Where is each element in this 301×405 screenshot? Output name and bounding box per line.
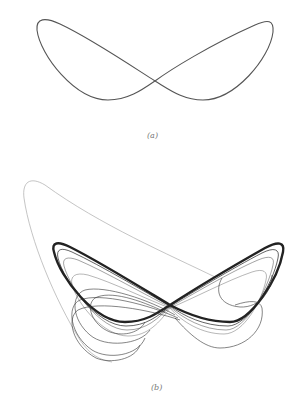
inner-loops-right xyxy=(175,275,272,348)
figure-panel-a: (a) xyxy=(0,0,301,160)
panel-b-label: (b) xyxy=(151,383,162,392)
chaotic-attractor-plot xyxy=(0,160,301,405)
figure-panel-b: (b) xyxy=(0,160,301,405)
figure-eight-curve xyxy=(37,20,273,100)
panel-a-label: (a) xyxy=(147,131,158,140)
